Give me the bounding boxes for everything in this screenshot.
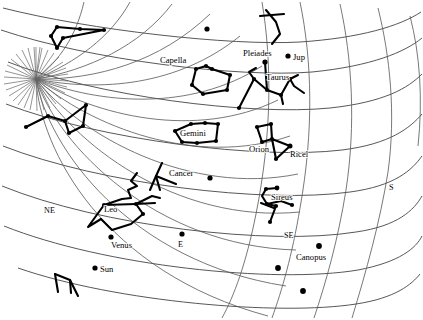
label-cancer: Cancer xyxy=(169,168,193,178)
constellation-taurus[interactable] xyxy=(237,60,304,110)
label-canopus: Canopus xyxy=(296,252,327,262)
field-star[interactable] xyxy=(204,26,209,31)
label-orion: Orion xyxy=(249,144,270,154)
grid-layer xyxy=(1,2,422,318)
star-pleiades-dot[interactable] xyxy=(262,59,267,64)
star-chart-svg: Capella Pleiades Taurus Jup Gemini Orion… xyxy=(0,0,423,320)
sky-chart-canvas: Capella Pleiades Taurus Jup Gemini Orion… xyxy=(0,0,423,320)
label-venus: Venus xyxy=(111,240,133,250)
label-gemini: Gemini xyxy=(180,128,206,138)
label-taurus: Taurus xyxy=(266,72,290,82)
compass-label-se: SE xyxy=(284,231,294,240)
altitude-arcs xyxy=(1,8,422,308)
constellation-orion[interactable] xyxy=(255,122,293,161)
label-layer: Capella Pleiades Taurus Jup Gemini Orion… xyxy=(44,48,394,274)
label-ricel: Ricel xyxy=(290,149,309,159)
star-canopus[interactable] xyxy=(316,243,322,249)
azimuth-meridians xyxy=(36,2,420,318)
label-leo: Leo xyxy=(104,204,117,214)
sun-dot[interactable] xyxy=(92,265,97,270)
field-star[interactable] xyxy=(207,175,212,180)
field-star[interactable] xyxy=(300,288,306,294)
constellation-corvus[interactable] xyxy=(55,274,78,296)
planet-venus-dot[interactable] xyxy=(108,234,113,239)
compass-label-ne: NE xyxy=(44,206,55,215)
field-star[interactable] xyxy=(275,265,281,271)
constellation-capella[interactable] xyxy=(190,64,232,96)
constellation-perseus[interactable] xyxy=(260,10,284,44)
label-jup: Jup xyxy=(293,52,305,62)
label-capella: Capella xyxy=(160,55,186,65)
compass-label-s: S xyxy=(389,183,394,192)
field-star[interactable] xyxy=(179,231,184,236)
label-sun: Sun xyxy=(100,264,114,274)
compass-label-e: E xyxy=(178,240,183,249)
label-pleiades: Pleiades xyxy=(243,48,272,58)
constellation-ursa-major[interactable] xyxy=(49,25,106,50)
planet-jupiter-dot[interactable] xyxy=(285,53,290,58)
label-sireus: Sireus xyxy=(271,192,293,202)
